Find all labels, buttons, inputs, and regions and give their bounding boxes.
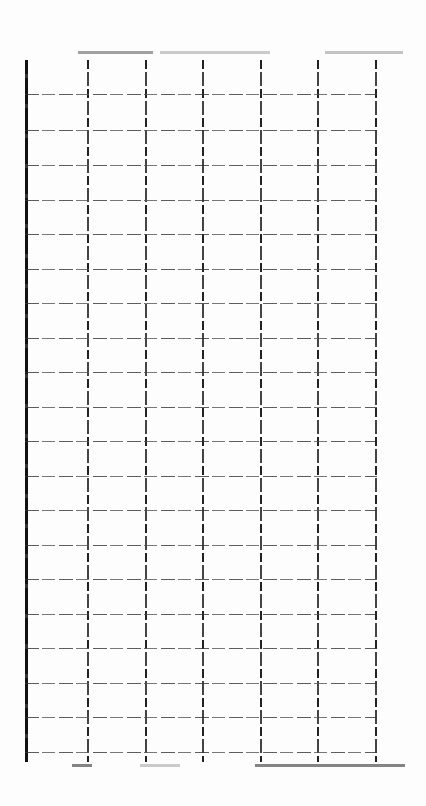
row-rule <box>25 407 377 408</box>
row-rule <box>25 752 377 753</box>
row-rule <box>25 200 377 201</box>
row-rule <box>25 476 377 477</box>
row-rule <box>25 130 377 131</box>
row-rule <box>25 579 377 580</box>
row-rule <box>25 372 377 373</box>
footer-mark <box>255 764 405 767</box>
row-rule <box>25 648 377 649</box>
row-rule <box>25 441 377 442</box>
footer-mark <box>140 764 180 767</box>
row-rule <box>25 94 377 95</box>
row-rule <box>25 683 377 684</box>
scanned-ledger-page <box>0 0 426 806</box>
footer-mark <box>72 764 92 767</box>
ledger-grid <box>25 60 377 762</box>
header-text-illegible <box>325 51 403 54</box>
row-rule <box>25 234 377 235</box>
row-rule <box>25 338 377 339</box>
row-rule <box>25 614 377 615</box>
row-rule <box>25 303 377 304</box>
row-rule <box>25 510 377 511</box>
header-text-illegible <box>78 51 153 54</box>
row-rule <box>25 717 377 718</box>
row-rule <box>25 269 377 270</box>
row-rule <box>25 545 377 546</box>
row-rule <box>25 165 377 166</box>
header-text-illegible <box>160 51 270 54</box>
